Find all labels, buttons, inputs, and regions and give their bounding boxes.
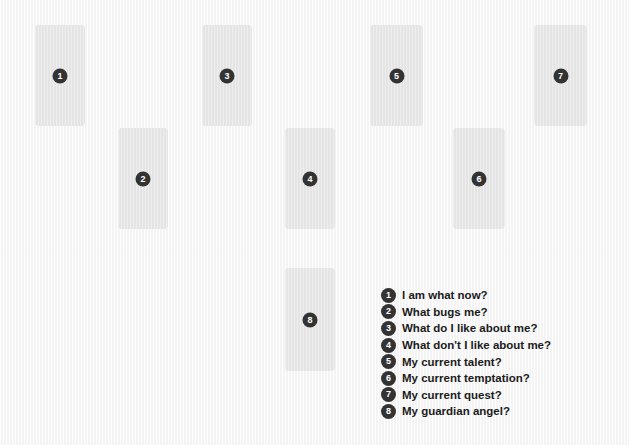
legend-badge-2: 2 (381, 304, 396, 319)
legend-item-7[interactable]: 7My current quest? (381, 387, 611, 404)
legend-item-8[interactable]: 8My guardian angel? (381, 403, 611, 420)
legend-item-2[interactable]: 2What bugs me? (381, 304, 611, 321)
card-8[interactable]: 8 (285, 268, 335, 371)
legend-label-1: I am what now? (402, 289, 488, 301)
legend-item-3[interactable]: 3What do I like about me? (381, 320, 611, 337)
legend-label-2: What bugs me? (402, 306, 488, 318)
legend-badge-1: 1 (381, 288, 396, 303)
legend-badge-4: 4 (381, 338, 396, 353)
card-badge-8: 8 (303, 312, 318, 327)
legend-item-4[interactable]: 4What don't I like about me? (381, 337, 611, 354)
legend: 1I am what now?2What bugs me?3What do I … (381, 287, 611, 420)
legend-label-5: My current talent? (402, 356, 502, 368)
legend-badge-6: 6 (381, 371, 396, 386)
card-badge-5: 5 (389, 68, 404, 83)
legend-badge-3: 3 (381, 321, 396, 336)
legend-item-6[interactable]: 6My current temptation? (381, 370, 611, 387)
card-4[interactable]: 4 (285, 128, 335, 229)
diagram-canvas: 12345678 1I am what now?2What bugs me?3W… (0, 0, 629, 445)
legend-label-3: What do I like about me? (402, 322, 537, 334)
card-badge-7: 7 (553, 68, 568, 83)
card-3[interactable]: 3 (202, 25, 252, 126)
card-1[interactable]: 1 (35, 25, 85, 126)
card-badge-1: 1 (53, 68, 68, 83)
legend-label-8: My guardian angel? (402, 405, 510, 417)
card-5[interactable]: 5 (370, 25, 423, 126)
card-6[interactable]: 6 (453, 128, 505, 229)
legend-item-1[interactable]: 1I am what now? (381, 287, 611, 304)
legend-label-7: My current quest? (402, 389, 502, 401)
legend-item-5[interactable]: 5My current talent? (381, 353, 611, 370)
legend-badge-5: 5 (381, 354, 396, 369)
legend-label-6: My current temptation? (402, 372, 530, 384)
legend-badge-8: 8 (381, 404, 396, 419)
card-badge-6: 6 (472, 171, 487, 186)
card-7[interactable]: 7 (534, 25, 587, 126)
card-badge-4: 4 (303, 171, 318, 186)
card-badge-3: 3 (220, 68, 235, 83)
card-2[interactable]: 2 (118, 128, 168, 229)
legend-label-4: What don't I like about me? (402, 339, 551, 351)
legend-badge-7: 7 (381, 387, 396, 402)
card-badge-2: 2 (136, 171, 151, 186)
